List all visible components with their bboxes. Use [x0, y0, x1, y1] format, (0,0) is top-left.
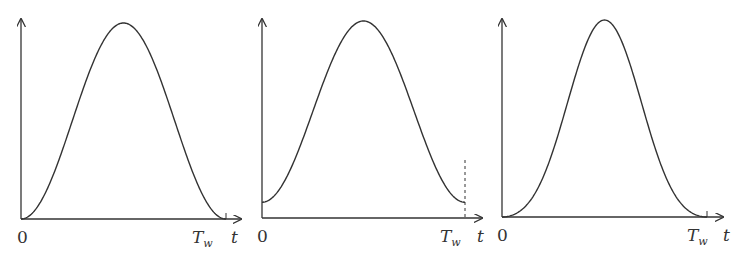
t-axis-label: t [723, 225, 730, 245]
window-curve [21, 23, 226, 219]
t-axis-label: t [477, 226, 484, 246]
plot-window-2: 0 Tw t [257, 19, 484, 249]
origin-label: 0 [257, 226, 268, 246]
t-axis-label: t [231, 227, 238, 247]
tw-label: Tw [192, 227, 213, 250]
tw-label: Tw [440, 226, 461, 249]
plot-window-1: 0 Tw t [17, 19, 241, 250]
figure-canvas: 0 Tw t 0 Tw t 0 Tw t [0, 0, 741, 262]
window-curve [262, 21, 465, 202]
origin-label: 0 [497, 225, 508, 245]
tw-label: Tw [687, 225, 708, 248]
plot-window-3: 0 Tw t [497, 19, 730, 248]
origin-label: 0 [17, 227, 28, 247]
window-curve [502, 20, 707, 217]
